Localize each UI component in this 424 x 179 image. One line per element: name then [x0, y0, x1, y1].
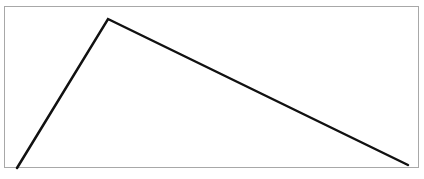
triangle-diagram: [0, 0, 424, 179]
triangle-sides: [17, 19, 408, 168]
